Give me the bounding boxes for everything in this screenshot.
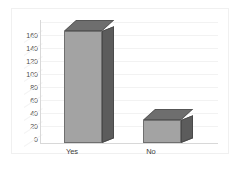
bar-chart: 160 140 120 100 80 60 40 20 0 xyxy=(0,0,241,170)
y-axis-line xyxy=(40,20,41,144)
x-category-label-no: No xyxy=(127,147,175,156)
x-category-label-yes: Yes xyxy=(48,147,96,156)
gridline xyxy=(40,22,218,23)
x-axis-line xyxy=(40,143,218,144)
bar-yes-side xyxy=(102,26,114,143)
bar-no-front xyxy=(143,120,181,143)
bar-no[interactable] xyxy=(143,120,191,143)
plot-area xyxy=(40,20,218,144)
bar-yes-front xyxy=(64,31,102,143)
bar-yes[interactable] xyxy=(64,31,112,143)
bar-no-side xyxy=(181,115,193,143)
